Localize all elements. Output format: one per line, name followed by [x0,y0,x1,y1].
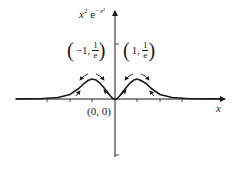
right-peak-label: ( 1, 1e ) [123,40,155,60]
function-curve [16,79,222,99]
function-label: x2 e−x² [79,8,105,20]
origin-label: (0, 0) [87,106,111,117]
graph-canvas [0,0,236,171]
x-axis-label: x [216,103,221,114]
left-peak-label: ( −1, 1e ) [67,40,105,60]
